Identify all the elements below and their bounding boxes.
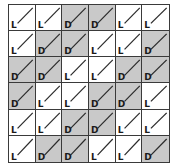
grid-cell: D xyxy=(62,136,89,162)
grid-cell: D xyxy=(142,31,169,57)
cell-label: D xyxy=(91,126,98,135)
grid-cell: L xyxy=(9,31,36,57)
cell-label: L xyxy=(144,100,150,109)
cell-label: L xyxy=(64,100,70,109)
grid-cell: D xyxy=(62,110,89,136)
cell-label: D xyxy=(144,47,151,56)
cell-label: D xyxy=(64,21,71,30)
cell-label: L xyxy=(91,47,97,56)
cell-label: L xyxy=(38,21,44,30)
grid-cell: D xyxy=(89,5,116,31)
cell-label: L xyxy=(118,21,124,30)
cell-label: L xyxy=(11,21,17,30)
cell-label: L xyxy=(91,153,97,162)
cell-label: D xyxy=(144,153,151,162)
cell-label: D xyxy=(11,73,18,82)
cell-label: D xyxy=(64,153,71,162)
grid-cell: L xyxy=(142,110,169,136)
cell-label: D xyxy=(64,47,71,56)
cell-label: D xyxy=(91,21,98,30)
cell-label: D xyxy=(144,73,151,82)
cell-label: D xyxy=(118,73,125,82)
cell-label: L xyxy=(144,126,150,135)
grid-cell: L xyxy=(36,5,63,31)
cell-label: L xyxy=(64,73,70,82)
cell-label: D xyxy=(64,126,71,135)
grid-cell: D xyxy=(116,57,143,83)
grid-cell: L xyxy=(116,31,143,57)
cell-label: D xyxy=(118,100,125,109)
cell-label: L xyxy=(11,153,17,162)
grid-cell: L xyxy=(116,136,143,162)
grid-cell: D xyxy=(36,136,63,162)
grid-cell: D xyxy=(9,83,36,109)
cell-label: L xyxy=(38,100,44,109)
grid-cell: D xyxy=(89,110,116,136)
grid-cell: L xyxy=(62,83,89,109)
grid-cell: D xyxy=(9,57,36,83)
grid-cell: D xyxy=(36,57,63,83)
grid-cell: L xyxy=(9,136,36,162)
cell-label: L xyxy=(144,21,150,30)
grid-cell: D xyxy=(142,136,169,162)
grid-cell: L xyxy=(116,5,143,31)
grid-cell: D xyxy=(142,57,169,83)
cell-label: D xyxy=(91,100,98,109)
grid-cell: D xyxy=(89,83,116,109)
grid-cell: L xyxy=(9,110,36,136)
grid-cell: L xyxy=(89,57,116,83)
grid-cell: L xyxy=(89,31,116,57)
grid-cell: D xyxy=(116,83,143,109)
cell-label: L xyxy=(118,153,124,162)
grid-cell: L xyxy=(36,83,63,109)
grid-cell: L xyxy=(89,136,116,162)
cell-label: D xyxy=(38,153,45,162)
grid-cell: D xyxy=(62,5,89,31)
cell-label: L xyxy=(38,126,44,135)
grid-cell: L xyxy=(62,57,89,83)
cell-label: L xyxy=(118,126,124,135)
cell-label: D xyxy=(38,47,45,56)
cell-label: L xyxy=(91,73,97,82)
grid-cell: L xyxy=(9,5,36,31)
cell-label: L xyxy=(118,47,124,56)
grid-cell: D xyxy=(62,31,89,57)
grid-cell: L xyxy=(116,110,143,136)
grid-cell: L xyxy=(142,83,169,109)
cell-label: L xyxy=(11,47,17,56)
tile-grid: LLDDLLLDDLLDDDLLDDDLLDDLLLDDLLLDDLLD xyxy=(8,4,170,163)
grid-cell: L xyxy=(142,5,169,31)
grid-cell: D xyxy=(36,31,63,57)
grid-cell: L xyxy=(36,110,63,136)
cell-label: D xyxy=(38,73,45,82)
cell-label: D xyxy=(11,100,18,109)
cell-label: L xyxy=(11,126,17,135)
